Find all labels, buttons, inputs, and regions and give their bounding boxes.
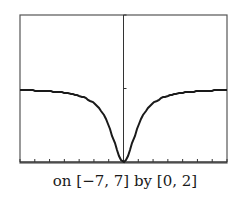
window-caption: on [−7, 7] by [0, 2] (0, 172, 234, 190)
function-plot (0, 0, 234, 170)
